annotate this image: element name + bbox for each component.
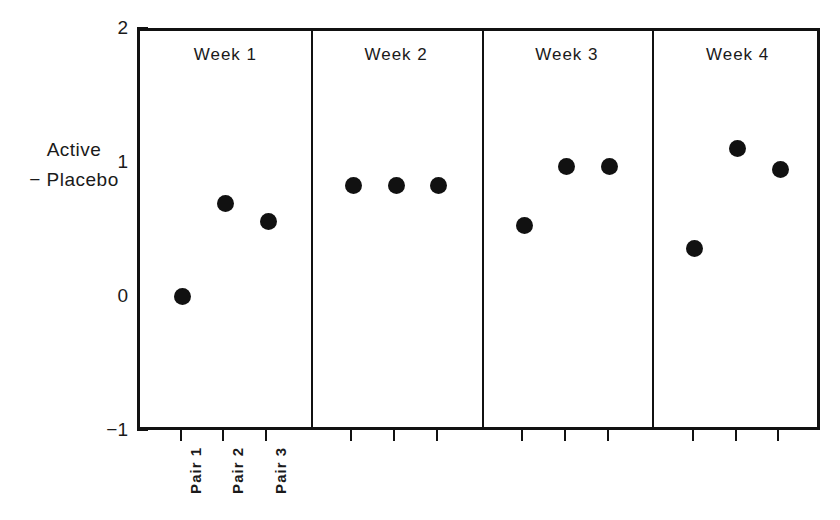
data-point [388,177,405,194]
y-axis-tick-label: 2 [0,17,137,39]
x-axis-tick-label: Pair 1 [187,447,204,494]
x-axis-tick [607,428,609,441]
data-point [729,140,746,157]
data-point [686,240,703,257]
data-point [430,177,447,194]
panel-divider [482,31,484,427]
x-axis-tick [735,428,737,441]
x-axis-tick [350,428,352,441]
x-axis-tick [436,428,438,441]
x-axis-tick [393,428,395,441]
panel-label-week-3: Week 3 [535,45,598,65]
panel-label-week-1: Week 1 [194,45,257,65]
panel-divider [652,31,654,427]
data-point [516,217,533,234]
x-axis-tick [180,428,182,441]
panel-divider [311,31,313,427]
x-axis-tick [222,428,224,441]
x-axis-tick-label: Pair 3 [272,447,289,494]
x-axis-tick [564,428,566,441]
y-axis-tick-label: −1 [0,419,137,441]
x-axis-tick [265,428,267,441]
data-point [345,177,362,194]
data-point [260,213,277,230]
plot-area: Week 1Week 2Week 3Week 4 [137,28,820,430]
panel-label-week-4: Week 4 [706,45,769,65]
data-point [558,158,575,175]
x-axis-tick [521,428,523,441]
x-axis-tick-label: Pair 2 [229,447,246,494]
data-point [601,158,618,175]
data-point [217,195,234,212]
data-point [174,288,191,305]
panel-label-week-2: Week 2 [364,45,427,65]
x-axis-tick [777,428,779,441]
y-axis-tick-label: 1 [0,151,137,173]
y-axis-tick-label: 0 [0,285,137,307]
chart-figure: Active − Placebo 210−1 Week 1Week 2Week … [0,0,840,520]
x-axis-tick [692,428,694,441]
data-point [772,161,789,178]
